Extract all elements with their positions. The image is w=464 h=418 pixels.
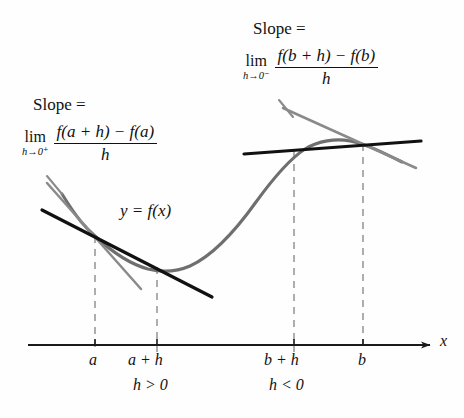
difference-quotient-right: f(b + h) − f(b) h (275, 46, 379, 88)
axis-label-a: a (89, 352, 97, 368)
curve-label: y = f(x) (120, 202, 171, 219)
x-axis-label: x (440, 333, 447, 349)
limit-lim-text-left: lim (22, 129, 49, 146)
secant-line-left (42, 210, 212, 297)
slope-left-heading: Slope = (33, 96, 86, 113)
difference-quotient-numerator-right: f(b + h) − f(b) (275, 46, 379, 67)
leader-line-right (279, 100, 293, 117)
limit-subscript-right: h→0⁻ (243, 70, 270, 81)
difference-quotient-denominator-right: h (275, 68, 379, 89)
difference-quotient-left: f(a + h) − f(a) h (54, 122, 158, 164)
axis-label-b: b (358, 352, 366, 368)
axis-label-h-negative: h < 0 (269, 377, 304, 393)
axis-label-b-plus-h: b + h (264, 352, 299, 368)
slope-right-heading: Slope = (253, 20, 306, 37)
figure-canvas (0, 0, 464, 418)
limit-subscript-left: h→0⁺ (22, 146, 49, 157)
axis-label-h-positive: h > 0 (133, 377, 168, 393)
x-axis (28, 339, 430, 345)
derivative-limit-figure: Slope = lim h→0⁺ f(a + h) − f(a) h Slope… (0, 0, 464, 418)
difference-quotient-denominator-left: h (54, 144, 158, 165)
slope-left-expression: lim h→0⁺ f(a + h) − f(a) h (22, 122, 157, 164)
slope-right-expression: lim h→0⁻ f(b + h) − f(b) h (243, 46, 378, 88)
difference-quotient-numerator-left: f(a + h) − f(a) (54, 122, 158, 143)
limit-lim-text-right: lim (243, 53, 270, 70)
tangent-line-at-b (283, 108, 416, 168)
limit-operator-right: lim h→0⁻ (243, 53, 270, 81)
secant-line-right (244, 141, 421, 154)
limit-operator-left: lim h→0⁺ (22, 129, 49, 157)
dashed-guides (95, 144, 363, 352)
axis-label-a-plus-h: a + h (128, 352, 163, 368)
